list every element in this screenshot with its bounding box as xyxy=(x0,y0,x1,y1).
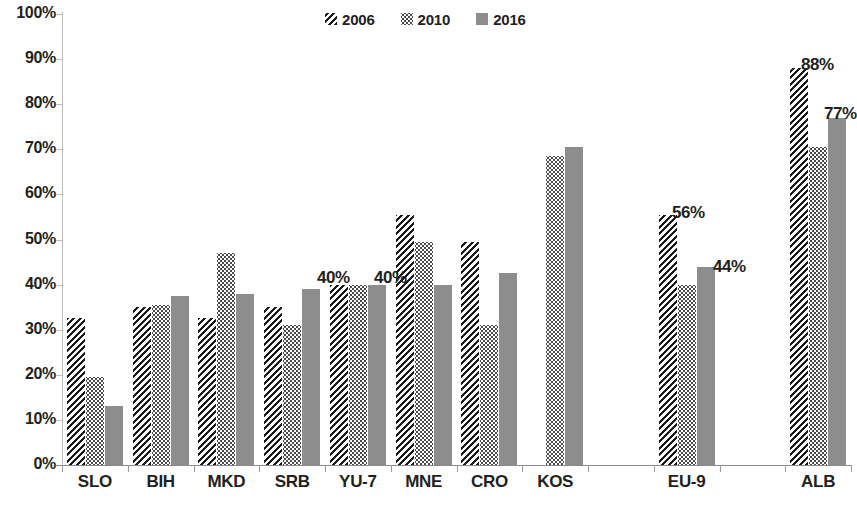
bar-srb-2006[interactable] xyxy=(264,307,282,465)
x-axis-label-cro: CRO xyxy=(471,472,508,492)
x-axis-tick xyxy=(522,465,523,472)
bar-group-kos xyxy=(527,14,583,465)
plot-area xyxy=(62,14,851,465)
data-label: 77% xyxy=(824,104,857,124)
bar-cro-2010[interactable] xyxy=(480,325,498,465)
data-label: 44% xyxy=(713,257,746,277)
y-axis-tick-label: 100% xyxy=(2,4,56,22)
bar-cro-2016[interactable] xyxy=(499,273,517,465)
data-label: 56% xyxy=(672,203,705,223)
x-axis-label-eu-9: EU-9 xyxy=(668,472,706,492)
y-axis-tick-label: 10% xyxy=(2,410,56,428)
y-axis-tick-label: 90% xyxy=(2,49,56,67)
bar-kos-2010[interactable] xyxy=(546,156,564,465)
x-axis-label-kos: KOS xyxy=(537,472,573,492)
bar-srb-2016[interactable] xyxy=(302,289,320,465)
bar-bih-2006[interactable] xyxy=(133,307,151,465)
x-axis-tick xyxy=(588,465,589,472)
y-axis-tick-label: 0% xyxy=(2,455,56,473)
y-axis-tick-label: 70% xyxy=(2,139,56,157)
x-axis-labels: SLOBIHMKDSRBYU-7MNECROKOSEU-9ALB xyxy=(0,472,852,507)
x-axis-tick xyxy=(259,465,260,472)
y-axis-tick-label: 50% xyxy=(2,230,56,248)
x-axis-label-slo: SLO xyxy=(78,472,112,492)
x-axis-label-alb: ALB xyxy=(801,472,835,492)
data-label: 40% xyxy=(317,268,350,288)
x-axis-tick xyxy=(391,465,392,472)
bar-srb-2010[interactable] xyxy=(283,325,301,465)
bar-group-slo xyxy=(67,14,123,465)
bar-group-alb xyxy=(790,14,846,465)
x-axis-tick xyxy=(654,465,655,472)
data-label: 40% xyxy=(374,268,407,288)
x-axis-label-yu-7: YU-7 xyxy=(339,472,377,492)
x-axis-line xyxy=(56,465,851,466)
bar-group-eu-9 xyxy=(659,14,715,465)
bar-alb-2016[interactable] xyxy=(828,118,846,465)
bar-slo-2010[interactable] xyxy=(86,377,104,465)
x-axis-label-bih: BIH xyxy=(146,472,174,492)
bar-eu-9-2016[interactable] xyxy=(697,267,715,465)
bar-slo-2016[interactable] xyxy=(105,406,123,465)
bar-eu-9-2006[interactable] xyxy=(659,215,677,465)
x-axis-tick xyxy=(851,465,852,472)
x-axis-tick xyxy=(457,465,458,472)
x-axis-tick xyxy=(128,465,129,472)
x-axis-tick xyxy=(62,465,63,472)
x-axis-label-mne: MNE xyxy=(405,472,442,492)
bar-mne-2006[interactable] xyxy=(396,215,414,465)
y-axis-tick-label: 40% xyxy=(2,275,56,293)
bar-group-yu-7 xyxy=(330,14,386,465)
y-axis-tick-label: 80% xyxy=(2,94,56,112)
y-axis-tick-label: 60% xyxy=(2,184,56,202)
bar-slo-2006[interactable] xyxy=(67,318,85,465)
x-axis-tick xyxy=(785,465,786,472)
bar-yu-7-2016[interactable] xyxy=(368,285,386,465)
bar-yu-7-2010[interactable] xyxy=(349,285,367,465)
bar-cro-2006[interactable] xyxy=(461,242,479,465)
bar-yu-7-2006[interactable] xyxy=(330,285,348,465)
bar-group-empty xyxy=(724,14,780,465)
x-axis-tick xyxy=(720,465,721,472)
bar-mkd-2016[interactable] xyxy=(236,294,254,465)
bar-bih-2010[interactable] xyxy=(152,305,170,465)
y-axis-tick-label: 30% xyxy=(2,320,56,338)
bar-group-empty xyxy=(593,14,649,465)
bar-alb-2006[interactable] xyxy=(790,68,808,465)
y-axis-labels: 100%90%80%70%60%50%40%30%20%10%0% xyxy=(0,0,56,507)
bar-mne-2010[interactable] xyxy=(415,242,433,465)
bar-group-mne xyxy=(396,14,452,465)
bar-group-srb xyxy=(264,14,320,465)
x-axis-label-srb: SRB xyxy=(275,472,310,492)
x-axis-tick xyxy=(325,465,326,472)
x-axis-label-mkd: MKD xyxy=(207,472,245,492)
bar-mne-2016[interactable] xyxy=(434,285,452,465)
bar-group-mkd xyxy=(198,14,254,465)
bar-group-bih xyxy=(133,14,189,465)
bar-eu-9-2010[interactable] xyxy=(678,285,696,465)
bar-kos-2016[interactable] xyxy=(565,147,583,465)
data-label: 88% xyxy=(801,55,834,75)
x-axis-tick xyxy=(194,465,195,472)
y-axis-tick-label: 20% xyxy=(2,365,56,383)
bar-group-cro xyxy=(461,14,517,465)
bar-bih-2016[interactable] xyxy=(171,296,189,465)
bar-mkd-2010[interactable] xyxy=(217,253,235,465)
bar-alb-2010[interactable] xyxy=(809,147,827,465)
bar-mkd-2006[interactable] xyxy=(198,318,216,465)
